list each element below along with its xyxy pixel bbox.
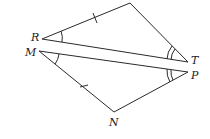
label-p: P: [190, 69, 199, 82]
angle-arc-r: [61, 31, 62, 42]
geometry-figure: R M T P N: [0, 0, 210, 139]
label-m: M: [24, 46, 37, 59]
angle-arc-m: [55, 54, 59, 64]
angle-arc-p-outer: [167, 69, 170, 82]
label-r: R: [30, 31, 39, 44]
angle-arc-t-inner: [171, 49, 175, 60]
label-t: T: [191, 54, 200, 67]
segment-r-top: [42, 3, 130, 39]
segment-np: [114, 72, 188, 112]
label-n: N: [108, 116, 119, 129]
angle-arc-p-inner: [171, 70, 173, 80]
segment-top-t: [130, 3, 188, 62]
segment-rt: [42, 39, 188, 62]
